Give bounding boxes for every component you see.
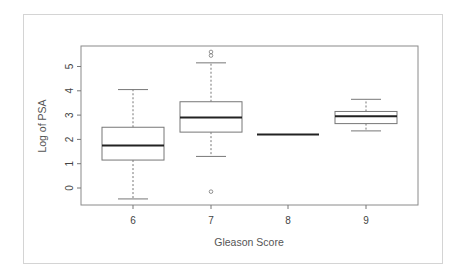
outlier-point [209,54,213,58]
y-tick-label: 5 [64,63,75,69]
y-tick-label: 2 [64,136,75,142]
box-6 [102,90,164,199]
y-tick-label: 1 [64,160,75,166]
outlier-point [209,190,213,194]
y-tick-label: 4 [64,88,75,94]
x-tick-label: 7 [208,215,214,226]
box-7 [180,50,242,193]
iqr-box [102,127,164,160]
x-tick-label: 8 [285,215,291,226]
x-axis-title: Gleason Score [214,236,284,248]
y-tick-label: 3 [64,112,75,118]
outlier-point [209,50,213,54]
y-tick-label: 0 [64,185,75,191]
box-9 [335,99,397,131]
y-axis: 012345 [64,63,82,191]
x-tick-label: 6 [130,215,136,226]
iqr-box [335,111,397,123]
plot-area-border [81,46,418,205]
x-tick-label: 9 [363,215,369,226]
boxes [102,50,397,199]
boxplot-chart: 012345 6789 Gleason Score Log of PSA [0,0,467,279]
y-axis-title: Log of PSA [36,99,48,152]
x-axis: 6789 [130,205,369,226]
